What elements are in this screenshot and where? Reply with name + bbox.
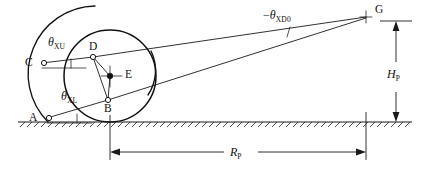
- point-label-C: C: [25, 57, 33, 69]
- RP-subscript: P: [237, 152, 241, 161]
- joint-marker-E: [107, 73, 113, 79]
- angle-label-theta-xu: θXU: [48, 36, 65, 48]
- arrowhead-RP-left: [110, 149, 120, 156]
- dimension-label-HP: HP: [387, 68, 400, 80]
- point-label-G: G: [375, 4, 383, 16]
- theta-xd0-sign: −: [263, 8, 270, 22]
- travel-arc-upper: [28, 6, 95, 122]
- joint-marker-A: [46, 115, 51, 120]
- HP-subscript: P: [396, 74, 400, 83]
- angle-label-theta-xd0: −θXD0: [263, 9, 291, 21]
- arrowhead-HP-top: [393, 21, 400, 31]
- knuckle-segment-DB: [93, 57, 108, 100]
- lower-link-extension-BG: [108, 18, 366, 100]
- theta-xu-subscript: XU: [54, 42, 65, 51]
- point-label-D: D: [89, 41, 97, 53]
- theta-xl-subscript: XL: [67, 96, 77, 105]
- arrowhead-HP-bottom: [393, 112, 400, 122]
- point-label-B: B: [104, 103, 112, 115]
- lower-control-arm-AB: [47, 100, 108, 118]
- point-label-A: A: [29, 112, 37, 124]
- kinematic-diagram: C A D B E G θXU θXL −θXD0 HP RP: [0, 0, 429, 170]
- arrowhead-RP-right: [356, 149, 366, 156]
- diagram-canvas: [0, 0, 429, 170]
- dimension-label-RP: RP: [230, 146, 242, 158]
- HP-symbol: H: [387, 67, 396, 81]
- point-label-E: E: [125, 69, 132, 81]
- knuckle-segment-DE: [93, 57, 110, 76]
- theta-xd0-symbol: θ: [270, 8, 276, 22]
- joint-marker-C: [41, 60, 46, 65]
- joint-marker-D: [90, 54, 95, 59]
- angle-label-theta-xl: θXL: [61, 90, 77, 102]
- theta-xd0-subscript: XD0: [276, 15, 291, 24]
